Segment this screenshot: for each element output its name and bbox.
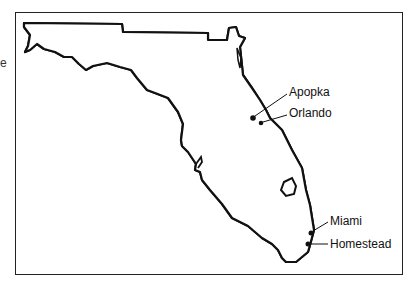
city-label-orlando: Orlando xyxy=(289,106,332,120)
city-dot-homestead xyxy=(306,242,311,247)
city-dot-apopka xyxy=(250,115,256,121)
city-dot-orlando xyxy=(259,121,264,126)
city-label-homestead: Homestead xyxy=(330,237,391,251)
city-label-apopka: Apopka xyxy=(289,85,330,99)
leader-miami xyxy=(313,222,328,231)
city-dot-miami xyxy=(309,231,314,236)
city-label-miami: Miami xyxy=(330,214,362,228)
